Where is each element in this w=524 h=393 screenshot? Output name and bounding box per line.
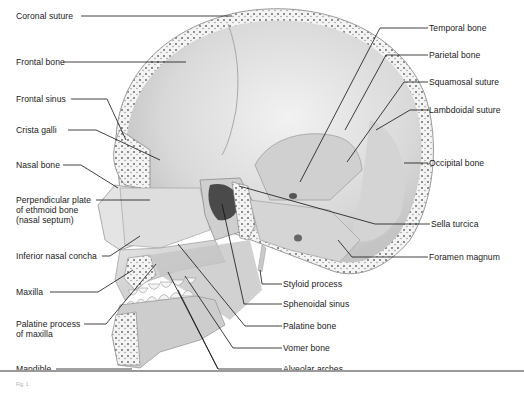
label-nasal-bone: Nasal bone <box>16 160 60 170</box>
label-frontal-bone: Frontal bone <box>16 57 65 67</box>
label-coronal-suture: Coronal suture <box>16 11 73 21</box>
bottom-divider <box>0 370 524 372</box>
figure-caption: Fig. 1 <box>16 381 29 387</box>
label-palatine-process-line1: Palatine process <box>16 319 80 329</box>
label-lambdoidal-suture: Lambdoidal suture <box>429 105 501 115</box>
label-palatine-process-line2: of maxilla <box>16 329 53 339</box>
label-foramen-magnum: Foramen magnum <box>429 252 500 262</box>
label-perpendicular-plate-line1: Perpendicular plate <box>16 195 91 205</box>
skull-diagram: Coronal suture Frontal bone Frontal sinu… <box>0 0 524 393</box>
label-inferior-nasal-concha: Inferior nasal concha <box>16 251 97 261</box>
label-frontal-sinus: Frontal sinus <box>16 94 66 104</box>
label-maxilla: Maxilla <box>16 287 43 297</box>
label-parietal-bone: Parietal bone <box>429 50 480 60</box>
label-crista-galli: Crista galli <box>16 125 57 135</box>
label-sella-turcica: Sella turcica <box>431 219 478 229</box>
label-styloid-process: Styloid process <box>283 279 342 289</box>
label-squamosal-suture: Squamosal suture <box>429 77 499 87</box>
label-perpendicular-plate-line3: (nasal septum) <box>16 215 74 225</box>
label-temporal-bone: Temporal bone <box>429 23 487 33</box>
label-perpendicular-plate-line2: of ethmoid bone <box>16 205 78 215</box>
label-palatine-bone: Palatine bone <box>283 321 336 331</box>
label-vomer-bone: Vomer bone <box>283 343 330 353</box>
label-sphenoidal-sinus: Sphenoidal sinus <box>283 299 349 309</box>
label-occipital-bone: Occipital bone <box>429 158 484 168</box>
